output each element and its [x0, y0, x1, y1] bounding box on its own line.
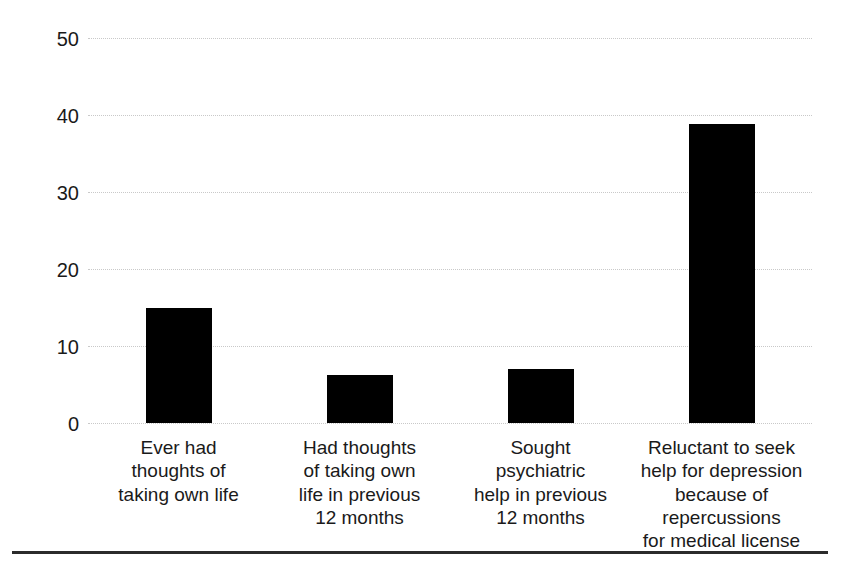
x-category-label-1: Ever hadthoughts oftaking own life — [76, 436, 281, 506]
x-category-label-line: Ever had — [76, 436, 281, 459]
x-category-label-line: 12 months — [438, 506, 643, 529]
x-axis-category-labels: Ever hadthoughts oftaking own lifeHad th… — [88, 436, 812, 536]
y-tick-label-30: 30 — [57, 183, 79, 203]
bar-4[interactable] — [689, 124, 755, 423]
plot-area: 50403020100 — [88, 38, 812, 423]
y-tick-label-0: 0 — [68, 414, 79, 434]
x-category-label-line: psychiatric — [438, 459, 643, 482]
x-category-label-line: thoughts of — [76, 459, 281, 482]
bottom-divider-rule — [12, 551, 828, 554]
x-category-label-3: Soughtpsychiatrichelp in previous12 mont… — [438, 436, 643, 529]
bar-chart-figure: Percent of sample 50403020100 Ever hadth… — [0, 0, 841, 567]
x-category-label-line: help for depression — [619, 459, 824, 482]
bar-3[interactable] — [508, 369, 574, 423]
gridline-0: 0 — [88, 423, 812, 424]
x-category-label-4: Reluctant to seekhelp for depressionbeca… — [619, 436, 824, 553]
x-category-label-line: Reluctant to seek — [619, 436, 824, 459]
bar-1[interactable] — [146, 308, 212, 423]
x-category-label-line: Sought — [438, 436, 643, 459]
x-category-label-line: because of repercussions — [619, 483, 824, 530]
x-category-label-line: help in previous — [438, 483, 643, 506]
x-category-label-line: for medical license — [619, 529, 824, 552]
y-tick-label-10: 10 — [57, 337, 79, 357]
bar-2[interactable] — [327, 375, 393, 423]
x-category-label-line: life in previous — [257, 483, 462, 506]
x-category-label-2: Had thoughtsof taking ownlife in previou… — [257, 436, 462, 529]
y-tick-label-40: 40 — [57, 106, 79, 126]
x-category-label-line: taking own life — [76, 483, 281, 506]
x-category-label-line: 12 months — [257, 506, 462, 529]
bars-group — [88, 38, 812, 423]
y-tick-label-20: 20 — [57, 260, 79, 280]
x-category-label-line: of taking own — [257, 459, 462, 482]
y-tick-label-50: 50 — [57, 29, 79, 49]
x-category-label-line: Had thoughts — [257, 436, 462, 459]
